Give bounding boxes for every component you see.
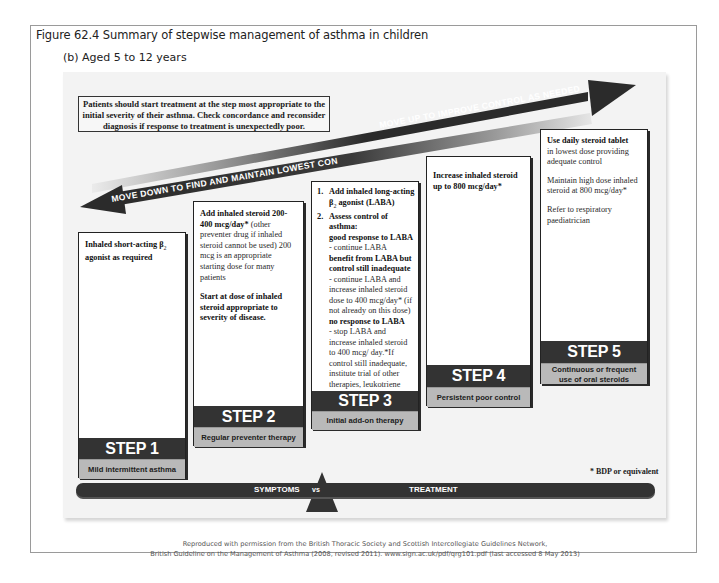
step-4-card: Increase inhaled steroid up to 800 mcg/d… [426,156,531,406]
step-2-subtitle: Regular preventer therapy [194,427,303,447]
step-1-subtitle: Mild intermittent asthma [79,459,185,479]
step-4-text: Increase inhaled steroid up to 800 mcg/d… [433,171,518,191]
step-1-text: Inhaled short-acting β [85,240,164,249]
step-3-label: STEP 3 [312,391,418,411]
step-5-label: STEP 5 [541,341,647,363]
step-5-subtitle: Continuous or frequent use of oral stero… [541,363,647,384]
step-3-body: 1.Add inhaled long-acting β2 agonist (LA… [317,187,415,411]
step-2-label: STEP 2 [194,406,303,427]
step-2-dose: Add inhaled steroid 200-400 mcg/day* [200,209,287,229]
balance-symptoms: SYMPTOMS [254,484,300,496]
balance-treatment: TREATMENT [409,484,458,496]
step-2-card: Add inhaled steroid 200-400 mcg/day* (ot… [193,201,304,446]
step-1-label: STEP 1 [79,438,185,459]
citation-line-1: Reproduced with permission from the Brit… [70,539,660,549]
symptoms-treatment-balance: SYMPTOMS vs TREATMENT [76,483,655,497]
step-4-body: Increase inhaled steroid up to 800 mcg/d… [433,171,525,192]
footnote: * BDP or equivalent [590,467,659,476]
step-5-heading: Use daily steroid tablet [547,136,628,145]
step-4-subtitle: Persistent poor control [427,387,530,407]
step-4-label: STEP 4 [427,365,530,387]
step-5-card: Use daily steroid tablet in lowest dose … [540,129,648,384]
step-3-card: 1.Add inhaled long-acting β2 agonist (LA… [311,181,419,429]
step-5-body: Use daily steroid tablet in lowest dose … [547,136,642,226]
step-2-body: Add inhaled steroid 200-400 mcg/day* (ot… [200,209,298,324]
no-response-heading: no response to LABA [329,317,405,326]
partial-benefit-heading: benefit from LABA but control still inad… [329,254,412,274]
step-2-start-note: Start at dose of inhaled steroid appropr… [200,292,282,322]
citation: Reproduced with permission from the Brit… [70,539,660,559]
good-response-heading: good response to LABA [329,233,413,242]
citation-line-2: British Guideline on the Management of A… [70,549,660,559]
step-1-body: Inhaled short-acting β2 agonist as requi… [85,240,180,264]
step-3-subtitle: Initial add-on therapy [312,411,418,430]
balance-vs: vs [312,484,320,496]
step-1-card: Inhaled short-acting β2 agonist as requi… [78,232,186,478]
